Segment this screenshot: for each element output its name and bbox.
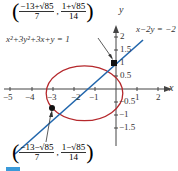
y-numerator: 1−√85 xyxy=(61,143,87,153)
y-numerator: 1+√85 xyxy=(61,2,87,12)
pointer-arrow-2 xyxy=(46,113,51,142)
intersection-label-2: ( −13−√857 , 1−√8514 ) xyxy=(12,142,94,162)
intersection-point-1 xyxy=(111,60,117,66)
x-denominator: 7 xyxy=(19,12,54,21)
y-denominator: 14 xyxy=(61,153,87,162)
y-tick-label: −1.5 xyxy=(119,122,135,132)
x-tick-label: −2 xyxy=(71,92,81,102)
x-tick-label: 1 xyxy=(135,92,140,102)
ellipse-equation: x²+3y²+3x+y = 1 xyxy=(6,34,70,44)
y-tick-label: 1.5 xyxy=(120,44,131,54)
diagram: x y −5 −4 −3 −2 −1 1 2 2 1.5 1 0.5 −0.5 … xyxy=(0,0,178,171)
x-tick-label: −1 xyxy=(89,92,99,102)
figure-label-stub xyxy=(6,167,20,171)
x-tick-label: −5 xyxy=(3,92,13,102)
y-axis-arrow-icon xyxy=(113,25,119,33)
x-tick-label: 2 xyxy=(156,92,161,102)
y-axis-label: y xyxy=(119,4,123,15)
arrow-head-icon xyxy=(108,54,113,60)
x-denominator: 7 xyxy=(19,153,54,162)
line-equation: x−2y = −2 xyxy=(136,24,176,34)
x-numerator: −13+√85 xyxy=(19,2,54,12)
ellipse-curve xyxy=(46,66,123,121)
x-tick-label: −4 xyxy=(25,92,35,102)
x-numerator: −13−√85 xyxy=(19,143,54,153)
y-tick-label: 0.5 xyxy=(120,70,131,80)
y-tick-label: 1 xyxy=(120,57,125,67)
y-tick-label: −0.5 xyxy=(119,96,135,106)
x-axis-label: x xyxy=(169,82,173,93)
y-tick-label: 2 xyxy=(120,31,125,41)
arrow-head-icon xyxy=(49,110,53,117)
x-tick-label: −3 xyxy=(47,92,57,102)
y-denominator: 14 xyxy=(61,12,87,21)
intersection-label-1: ( −13+√857 , 1+√8514 ) xyxy=(12,1,94,21)
y-tick-label: −1 xyxy=(119,109,129,119)
